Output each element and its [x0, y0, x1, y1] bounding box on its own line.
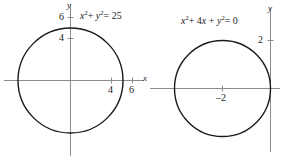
right-y-tick-label-2: 2	[258, 35, 263, 45]
left-plot-svg	[0, 0, 150, 160]
right-x-tick-label-minus2: –2	[216, 93, 226, 103]
right-eq-plus2: +	[209, 15, 215, 26]
panel-left-circle-graph: y x 6 4 4 6 x2+ y2= 25	[0, 0, 150, 160]
right-y-axis-label: y	[268, 4, 272, 13]
left-eq-equals: =	[104, 10, 110, 21]
left-eq-rhs: 25	[112, 10, 122, 21]
left-x-tick-label-4: 4	[108, 85, 113, 95]
right-eq-equals: =	[225, 15, 231, 26]
right-eq-x-lin: x	[202, 15, 206, 26]
right-eq-rhs: 0	[233, 15, 238, 26]
left-eq-plus: +	[88, 10, 94, 21]
left-x-axis-label: x	[143, 74, 147, 83]
figure-two-circle-graphs: y x 6 4 4 6 x2+ y2= 25 y	[0, 0, 284, 160]
left-x-tick-label-6: 6	[129, 85, 134, 95]
left-y-axis-label: y	[67, 1, 71, 10]
left-equation-label: x2+ y2= 25	[80, 11, 122, 21]
panel-right-circle-graph: y 2 –2 x2+ 4x + y2= 0	[150, 0, 284, 160]
left-y-tick-label-6: 6	[59, 12, 64, 22]
right-equation-label: x2+ 4x + y2= 0	[181, 16, 238, 26]
left-y-tick-label-4: 4	[59, 33, 64, 43]
right-eq-plus1: +	[189, 15, 195, 26]
